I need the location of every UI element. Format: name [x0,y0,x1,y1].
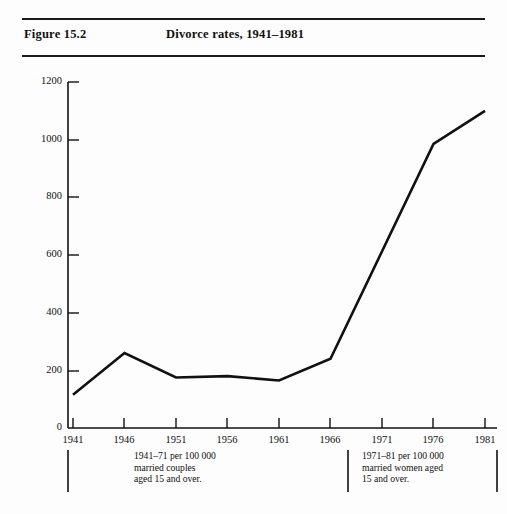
y-axis-ticks [68,82,79,371]
x-tick-label-1961: 1961 [255,434,303,445]
y-tick-label-200: 200 [22,364,62,375]
footnote-right: 1971–81 per 100 000 married women aged 1… [362,450,444,485]
footnote-left-line1: 1941–71 per 100 000 [134,450,216,462]
y-tick-label-400: 400 [22,306,62,317]
footnote-left-line3: aged 15 and over. [134,473,216,485]
x-tick-label-1956: 1956 [203,434,251,445]
x-axis-ticks [73,418,485,428]
y-tick-label-1200: 1200 [22,75,62,86]
y-tick-label-600: 600 [22,248,62,259]
footnote-left-line2: married couples [134,462,216,474]
y-tick-label-0: 0 [22,421,62,432]
x-tick-label-1976: 1976 [409,434,457,445]
footnote-right-line2: married women aged [362,462,444,474]
x-tick-label-1971: 1971 [358,434,406,445]
x-tick-label-1951: 1951 [152,434,200,445]
footnote-left: 1941–71 per 100 000 married couples aged… [134,450,216,485]
x-tick-label-1941: 1941 [49,434,97,445]
x-tick-label-1966: 1966 [306,434,354,445]
footnote-right-line3: 15 and over. [362,473,444,485]
y-tick-label-1000: 1000 [22,133,62,144]
footnote-right-line1: 1971–81 per 100 000 [362,450,444,462]
x-tick-label-1946: 1946 [100,434,148,445]
x-tick-label-1981: 1981 [461,434,507,445]
figure-container: Figure 15.2 Divorce rates, 1941–1981 [0,0,507,514]
y-tick-label-800: 800 [22,190,62,201]
divorce-rate-series-line [73,111,485,395]
